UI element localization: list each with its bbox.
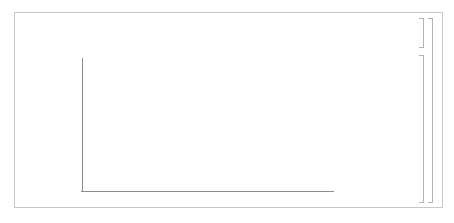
output-cell-bracket[interactable] bbox=[419, 55, 424, 203]
notebook-cell-group bbox=[14, 12, 443, 208]
bar-chart bbox=[55, 53, 345, 201]
bar-series bbox=[83, 58, 331, 191]
plot-area bbox=[83, 58, 331, 191]
x-axis bbox=[81, 191, 334, 192]
cell-group-bracket[interactable] bbox=[428, 18, 433, 203]
screenshot-root bbox=[0, 0, 454, 223]
input-cell-bracket[interactable] bbox=[419, 18, 424, 48]
